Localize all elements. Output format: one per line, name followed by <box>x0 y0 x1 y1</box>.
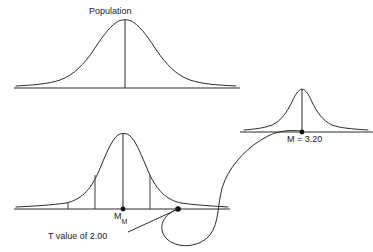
population-curve <box>16 20 236 86</box>
comparison-curve <box>16 134 228 208</box>
comparison-mean-label: MM <box>114 212 127 223</box>
statistics-distribution-diagram: Population M = 3.20 MM T value of 2.00 <box>0 0 373 252</box>
comparison-distribution-group <box>14 133 230 212</box>
sample-curve <box>244 89 368 130</box>
population-label: Population <box>89 7 132 16</box>
sample-mean-label: M = 3.20 <box>287 135 322 144</box>
s-curve-connector <box>162 131 300 246</box>
comparison-mean-label-main: M <box>114 211 122 221</box>
population-distribution-group <box>14 20 240 88</box>
comparison-mean-label-subscript: M <box>122 218 128 225</box>
t-value-label: T value of 2.00 <box>48 232 107 241</box>
diagram-canvas <box>0 0 373 252</box>
sample-distribution-group <box>240 89 373 134</box>
